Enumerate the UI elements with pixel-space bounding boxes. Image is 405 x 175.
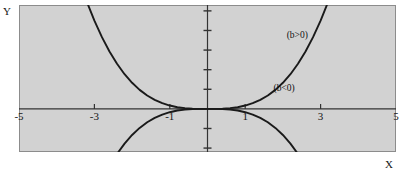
- curve-annotation: (b<0): [273, 83, 294, 94]
- figure-container: Y X -5-3-1135 (b>0)(b<0): [0, 0, 405, 175]
- axis-layer: [19, 5, 396, 152]
- x-axis-tick-label: -3: [90, 110, 100, 122]
- x-axis-tick-label: 3: [318, 110, 324, 122]
- x-axis-tick-label: -5: [14, 110, 24, 122]
- plot-svg: -5-3-1135 (b>0)(b<0): [0, 0, 405, 175]
- curve-annotation: (b>0): [287, 30, 308, 41]
- x-axis-tick-label: 5: [393, 110, 399, 122]
- label-layer: (b>0)(b<0): [273, 30, 307, 94]
- tick-layer: -5-3-1135: [14, 11, 399, 148]
